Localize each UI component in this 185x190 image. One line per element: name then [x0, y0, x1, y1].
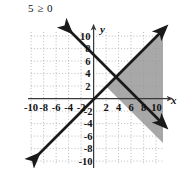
y-tick-label: -4: [84, 118, 93, 129]
coordinate-plane: -10 -8 -6 -4 -2 2 4 6 8 10 10 8 6 4 2 -2…: [0, 0, 185, 190]
x-tick-label: -4: [64, 102, 73, 113]
x-axis-label: x: [170, 94, 177, 106]
y-tick-label: 10: [80, 31, 91, 42]
figure-caption: 5 ≥ 0: [28, 2, 53, 14]
y-tick-label: 2: [85, 81, 90, 92]
x-tick-label: -10: [24, 102, 38, 113]
y-tick-label: 4: [85, 68, 91, 79]
x-tick-label: 4: [116, 102, 122, 113]
y-tick-label: 6: [85, 56, 90, 67]
y-tick-label: -2: [84, 106, 93, 117]
graph-figure: 5 ≥ 0: [0, 0, 185, 190]
y-tick-label: -6: [84, 131, 93, 142]
x-tick-label: 6: [128, 102, 133, 113]
y-axis-label: y: [98, 23, 105, 35]
x-tick-label: 2: [103, 102, 108, 113]
y-tick-label: -8: [84, 143, 93, 154]
x-tick-label: 10: [151, 102, 162, 113]
y-tick-label: -10: [79, 156, 93, 167]
y-tick-label: 8: [85, 43, 90, 54]
x-tick-label: -6: [52, 102, 61, 113]
x-tick-label: 8: [141, 102, 146, 113]
x-tick-label: -8: [39, 102, 48, 113]
